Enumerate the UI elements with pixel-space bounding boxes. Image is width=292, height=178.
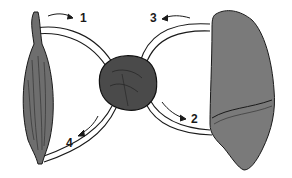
circulation-diagram xyxy=(0,0,292,178)
arrow-label-4: 4 xyxy=(66,137,73,149)
lung-icon xyxy=(210,11,275,170)
arrow-label-2: 2 xyxy=(191,113,198,125)
arrow-label-3: 3 xyxy=(150,12,157,24)
arrow-label-1: 1 xyxy=(80,12,87,24)
vessel-heart-to-lung xyxy=(146,100,212,135)
vessel-lung-to-heart xyxy=(140,24,210,64)
heart-icon xyxy=(99,56,156,111)
arrow-3-icon xyxy=(162,15,190,21)
muscle-icon xyxy=(23,12,53,164)
arrow-1-icon xyxy=(48,14,73,19)
arrow-2-icon xyxy=(162,102,186,121)
